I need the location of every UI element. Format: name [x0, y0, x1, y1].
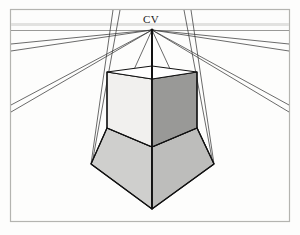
cv-label: CV: [143, 13, 159, 25]
figure-canvas: CV: [0, 0, 300, 235]
perspective-diagram: [0, 0, 300, 235]
vanishing-point-marker: [150, 28, 153, 31]
